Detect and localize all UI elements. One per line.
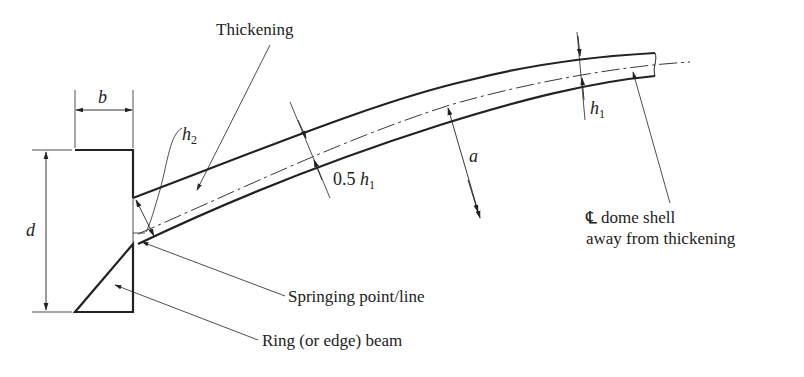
- label-h2: h2: [182, 124, 197, 147]
- ring-beam-outline: [75, 150, 133, 312]
- diagram-svg: Thickening b d h2 0.5 h1 a h1 ℄dome shel…: [0, 0, 804, 377]
- label-d: d: [26, 220, 36, 240]
- label-h1: h1: [590, 98, 605, 121]
- dome-edge-diagram: Thickening b d h2 0.5 h1 a h1 ℄dome shel…: [0, 0, 804, 377]
- label-half-h1: 0.5 h1: [333, 169, 375, 192]
- label-centerline-line2: away from thickening: [586, 229, 736, 248]
- label-ring-beam: Ring (or edge) beam: [262, 331, 402, 350]
- label-thickening: Thickening: [216, 20, 294, 39]
- label-b: b: [98, 87, 107, 107]
- label-springing: Springing point/line: [288, 287, 424, 306]
- label-a: a: [469, 146, 478, 166]
- shell-outer-surface: [133, 53, 655, 198]
- label-centerline: ℄dome shell: [585, 208, 675, 227]
